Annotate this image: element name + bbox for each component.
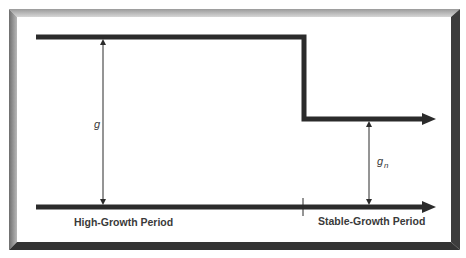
diagram-canvas: g g n High-Growth Period Stable-Growth P… [0, 0, 466, 258]
gn-label-base: g [377, 155, 384, 167]
g-label: g [94, 118, 101, 130]
gn-label-subscript: n [384, 161, 389, 170]
stable-growth-period-label: Stable-Growth Period [318, 215, 425, 227]
frame-right-bevel [451, 9, 460, 250]
frame-top-bevel [9, 9, 460, 17]
high-growth-period-label: High-Growth Period [74, 216, 173, 228]
frame-bottom-bevel [9, 242, 460, 250]
beveled-frame [9, 9, 460, 250]
frame-left-bevel [9, 9, 17, 250]
